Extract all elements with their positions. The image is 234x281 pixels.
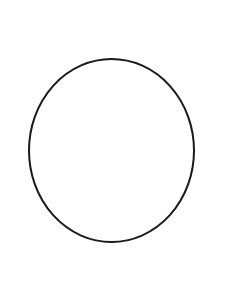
- ellipse-drawing: [0, 0, 234, 281]
- drawing-canvas: [0, 0, 234, 281]
- ellipse-outline: [29, 59, 194, 242]
